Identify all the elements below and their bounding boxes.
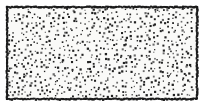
figure-root: Dense random dot (stipple) texture filli…	[0, 0, 202, 106]
stipple-rectangle-figure	[0, 0, 202, 106]
